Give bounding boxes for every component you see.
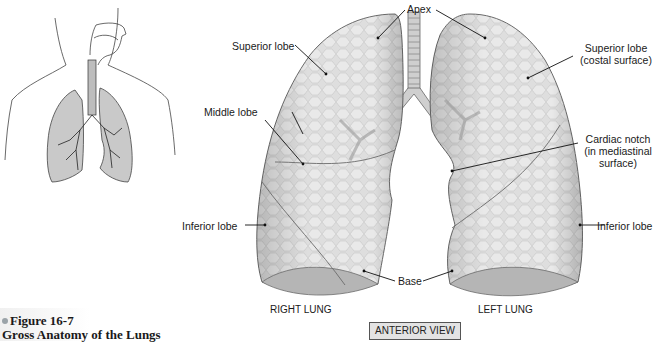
label-cardiac-notch-line1: Cardiac notch bbox=[580, 133, 655, 145]
label-left-inferior-lobe: Inferior lobe bbox=[597, 220, 652, 232]
label-cardiac-notch-line2: (in mediastinal bbox=[580, 145, 655, 157]
label-left-lung: LEFT LUNG bbox=[478, 304, 533, 316]
figure-number-text: Figure 16-7 bbox=[10, 314, 74, 328]
figure-number: Figure 16-7 bbox=[2, 314, 161, 328]
label-right-lung: RIGHT LUNG bbox=[270, 304, 332, 316]
label-apex: Apex bbox=[407, 3, 431, 15]
figure-caption: Figure 16-7 Gross Anatomy of the Lungs bbox=[2, 314, 161, 342]
figure-title: Gross Anatomy of the Lungs bbox=[2, 328, 161, 342]
label-cardiac-notch-line3: surface) bbox=[580, 157, 655, 169]
label-left-superior-lobe-line2: (costal surface) bbox=[576, 54, 655, 66]
left-lung bbox=[430, 14, 582, 296]
label-left-superior-lobe-line1: Superior lobe bbox=[576, 42, 655, 54]
label-left-superior-lobe: Superior lobe (costal surface) bbox=[576, 42, 655, 66]
label-right-superior-lobe: Superior lobe bbox=[232, 40, 294, 52]
bullet-icon bbox=[2, 318, 8, 324]
label-base: Base bbox=[398, 275, 422, 287]
view-label: ANTERIOR VIEW bbox=[369, 322, 461, 340]
label-cardiac-notch: Cardiac notch (in mediastinal surface) bbox=[580, 133, 655, 169]
right-lung bbox=[257, 14, 403, 295]
inset-trachea bbox=[88, 60, 96, 115]
label-right-middle-lobe: Middle lobe bbox=[204, 106, 258, 118]
label-right-inferior-lobe: Inferior lobe bbox=[182, 220, 237, 232]
